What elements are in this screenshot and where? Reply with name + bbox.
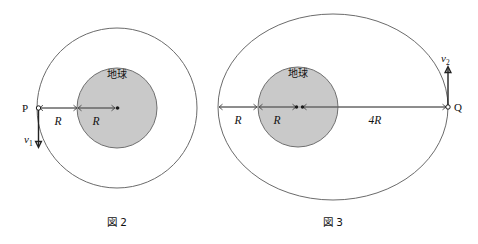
figure-3-label-r2: R — [272, 114, 280, 126]
figure-2-earth-center-dot — [116, 106, 119, 109]
figure-2-label-p: P — [22, 102, 28, 114]
diagram-canvas: P 地球 R R v1 図 2 — [0, 0, 478, 244]
figure-2-velocity-arrow — [36, 110, 42, 148]
figure-3-earth-center-dot — [295, 105, 298, 108]
figure-3-focus-dot — [301, 105, 304, 108]
figure-3-label-q: Q — [454, 101, 462, 113]
figure-2-caption: 図 2 — [107, 216, 127, 228]
figure-3-label-4r: 4R — [369, 114, 382, 126]
figure-3-label-earth: 地球 — [288, 67, 308, 79]
figure-2-point-p-marker — [36, 106, 40, 110]
figure-2-label-r-outer: R — [53, 115, 61, 127]
figure-3-velocity-arrow — [445, 67, 451, 106]
figure-sheet: P 地球 R R v1 図 2 — [0, 0, 478, 244]
figure-3-label-r1: R — [233, 114, 241, 126]
figure-3-caption: 図 3 — [323, 216, 343, 228]
figure-3-label-velocity: v2 — [441, 52, 450, 67]
figure-2-group: P 地球 R R v1 図 2 — [22, 28, 197, 228]
figure-3-point-q-marker — [446, 105, 450, 109]
figure-2-label-r-inner: R — [91, 115, 99, 127]
figure-2-label-earth: 地球 — [107, 68, 127, 80]
figure-3-dimension-r1 — [219, 104, 257, 110]
figure-2-dimension-outer — [40, 105, 78, 111]
figure-2-label-velocity: v1 — [24, 133, 33, 148]
figure-3-group: Q 地球 R R 4R v2 図 3 — [218, 14, 462, 228]
